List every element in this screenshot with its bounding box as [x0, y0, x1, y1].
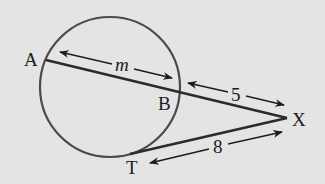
point-label-b: B — [158, 93, 171, 114]
measure-label-5: 5 — [231, 84, 241, 105]
diagram-canvas: m 5 8 A B X T — [0, 0, 325, 184]
measure-label-8: 8 — [213, 136, 223, 157]
geometry-figure: m 5 8 A B X T — [0, 0, 325, 184]
point-label-x: X — [292, 109, 306, 130]
point-label-a: A — [24, 49, 38, 70]
point-label-t: T — [126, 157, 138, 178]
measure-label-m: m — [115, 54, 129, 75]
